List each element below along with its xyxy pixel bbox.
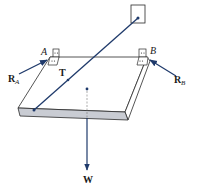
label-a: A [40,46,48,57]
label-t: T [59,67,66,78]
cable-bottom-dot [33,109,36,112]
tension-point [67,79,70,82]
cable-top-dot [137,17,140,20]
plate-fbd-diagram: A B R A R B T W [0,0,200,190]
diagram-canvas: A B R A R B T W [0,0,200,190]
bracket-a [48,49,59,65]
label-ra-sub: A [14,78,20,86]
bracket-b [137,49,148,65]
label-b: B [150,45,156,56]
label-rb-sub: B [181,79,186,87]
center-of-gravity [86,88,89,91]
cable-anchor [131,5,145,23]
reaction-b-arrow [150,60,176,76]
label-w: W [83,174,93,185]
